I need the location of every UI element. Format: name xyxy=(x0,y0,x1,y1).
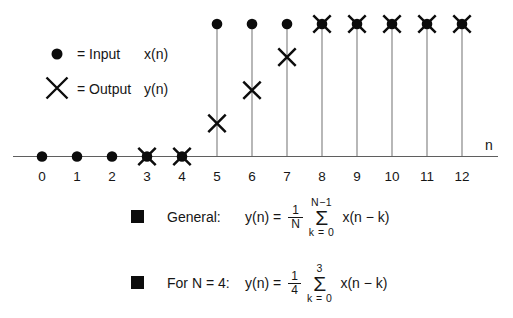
x-tick-label: 2 xyxy=(108,169,116,184)
x-tick-label: 7 xyxy=(283,169,291,184)
summation-lower: k = 0 xyxy=(309,227,335,238)
square-bullet-icon xyxy=(131,210,144,223)
input-dot-marker xyxy=(212,19,223,30)
output-x-icon xyxy=(44,75,70,101)
fraction-denominator: 4 xyxy=(288,283,301,297)
x-tick-label: 9 xyxy=(353,169,361,184)
formula-row-general: General: y(n) = 1 N N−1 Σ k = 0 x(n − k) xyxy=(0,193,513,241)
x-tick-label: 1 xyxy=(73,169,81,184)
formula-lhs: y(n) = xyxy=(245,209,281,225)
summation-lower: k = 0 xyxy=(307,293,333,304)
fraction: 1 N xyxy=(288,204,303,231)
fraction-denominator: N xyxy=(288,217,303,231)
legend-input-signal: x(n) xyxy=(144,47,168,61)
input-dot-marker xyxy=(37,151,48,162)
legend-output-eq: = Output xyxy=(77,82,131,96)
sigma-icon: Σ xyxy=(315,208,328,227)
square-bullet-icon xyxy=(131,276,144,289)
input-dot-marker xyxy=(247,19,258,30)
legend-output-signal: y(n) xyxy=(144,82,168,96)
summation: 3 Σ k = 0 xyxy=(307,263,333,304)
formula-rhs: x(n − k) xyxy=(342,209,389,225)
x-tick-label: 11 xyxy=(420,169,434,184)
x-tick-label: 4 xyxy=(178,169,186,184)
formula-label: General: xyxy=(167,210,221,224)
input-dot-marker xyxy=(107,151,118,162)
fraction-numerator: 1 xyxy=(289,204,302,217)
sigma-icon: Σ xyxy=(313,274,326,293)
input-dot-marker xyxy=(72,151,83,162)
input-dot-marker xyxy=(282,19,293,30)
x-tick-label: 8 xyxy=(318,169,326,184)
x-tick-label: 10 xyxy=(384,169,399,184)
formula-rhs: x(n − k) xyxy=(340,275,387,291)
formula-label: For N = 4: xyxy=(167,276,230,290)
fraction: 1 4 xyxy=(288,270,301,297)
formula-expression: y(n) = 1 4 3 Σ k = 0 x(n − k) xyxy=(245,259,388,307)
x-axis-label: n xyxy=(485,137,493,153)
summation: N−1 Σ k = 0 xyxy=(309,197,335,238)
x-tick-label: 5 xyxy=(213,169,221,184)
x-tick-label: 6 xyxy=(248,169,256,184)
x-tick-label: 12 xyxy=(454,169,469,184)
formula-row-n4: For N = 4: y(n) = 1 4 3 Σ k = 0 x(n − k) xyxy=(0,259,513,307)
formula-expression: y(n) = 1 N N−1 Σ k = 0 x(n − k) xyxy=(245,193,390,241)
input-dot-icon xyxy=(46,43,68,65)
x-tick-label: 0 xyxy=(38,169,46,184)
fraction-numerator: 1 xyxy=(288,270,301,283)
formula-lhs: y(n) = xyxy=(245,275,281,291)
legend-input-eq: = Input xyxy=(77,47,120,61)
figure-canvas: 0123456789101112n = Input x(n) = Output … xyxy=(0,0,513,318)
x-tick-label: 3 xyxy=(143,169,151,184)
